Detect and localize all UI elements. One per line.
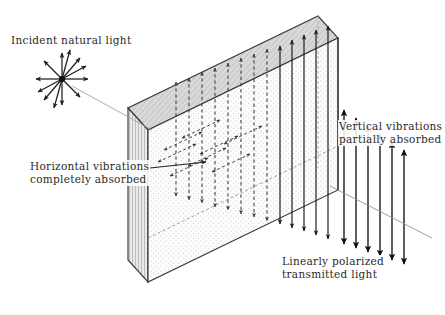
label-horizontal-line2: completely absorbed [30, 173, 149, 186]
starburst-origin [59, 76, 65, 82]
label-transmitted-line1: Linearly polarized [282, 255, 384, 268]
label-horizontal-vibrations: Horizontal vibrations completely absorbe… [29, 160, 150, 186]
polarization-diagram: Incident natural light Horizontal vibrat… [0, 0, 445, 315]
crystal-block [128, 16, 338, 282]
label-transmitted-line2: transmitted light [282, 268, 384, 281]
label-transmitted-light: Linearly polarized transmitted light [281, 255, 385, 281]
crystal-left-face [128, 108, 148, 282]
label-vertical-vibrations: Vertical vibrations partially absorbed [338, 120, 443, 146]
label-incident-natural-light: Incident natural light [10, 34, 132, 47]
exit-ray [330, 186, 432, 238]
label-vertical-line2: partially absorbed [339, 133, 442, 146]
label-horizontal-line1: Horizontal vibrations [30, 160, 149, 173]
label-vertical-line1: Vertical vibrations [339, 120, 442, 133]
